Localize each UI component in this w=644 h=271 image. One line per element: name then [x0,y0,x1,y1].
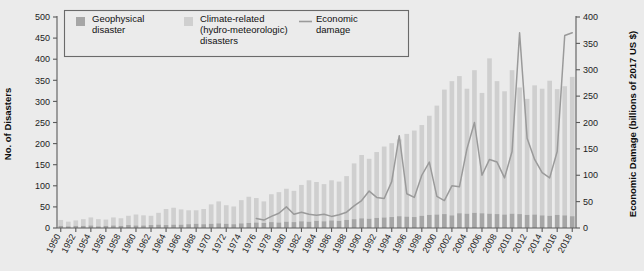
bar-climate-2001 [442,90,447,214]
y-tick-label: 200 [35,139,50,149]
bar-geophysical-1971 [216,223,221,228]
bar-geophysical-1967 [186,224,191,228]
chart-legend: GeophysicaldisasterClimate-related(hydro… [65,11,409,57]
bar-climate-1966 [179,209,184,224]
bar-climate-1964 [164,209,169,225]
bar-climate-2007 [487,58,492,213]
bar-climate-2006 [480,93,485,213]
bar-climate-1957 [111,217,116,225]
y-tick-label: 500 [35,12,50,22]
y-tick-label: 150 [35,160,50,170]
bar-geophysical-1979 [277,223,282,228]
bar-geophysical-1980 [284,222,289,228]
bar-climate-1950 [58,220,63,226]
bar-geophysical-1984 [314,221,319,228]
bar-geophysical-2001 [442,214,447,228]
bar-geophysical-2012 [525,215,530,228]
bar-geophysical-1993 [382,217,387,228]
bar-climate-1958 [119,218,124,226]
y2-axis-title: Economic Damage (billions of 2017 US $) [627,31,638,217]
bar-geophysical-2010 [510,214,515,228]
bar-geophysical-1998 [419,216,424,228]
bar-geophysical-1970 [209,224,214,228]
bar-climate-2011 [517,87,522,214]
y2-tick-label: 300 [583,65,598,75]
bar-climate-1983 [307,180,312,221]
y-tick-label: 400 [35,54,50,64]
legend-label: Climate-related [200,13,264,24]
bar-climate-1960 [134,215,139,226]
bar-geophysical-1975 [246,223,251,228]
bar-geophysical-1996 [404,217,409,228]
bar-climate-1969 [201,209,206,224]
y-tick-label: 250 [35,118,50,128]
y2-tick-label: 200 [583,118,598,128]
bar-climate-1965 [171,208,176,225]
bar-climate-1993 [382,147,387,218]
bar-climate-1996 [404,134,409,217]
bar-climate-1975 [246,197,251,223]
bar-geophysical-1983 [307,222,312,228]
y2-tick-label: 400 [583,12,598,22]
legend-label: disaster [92,24,125,35]
y-tick-label: 50 [40,202,50,212]
bar-geophysical-1977 [262,223,267,228]
bar-climate-1986 [329,180,334,220]
bar-geophysical-2007 [487,214,492,228]
bar-climate-1982 [299,185,304,221]
bar-climate-1985 [322,184,327,221]
legend-label: Geophysical [92,13,144,24]
bar-geophysical-1969 [201,224,206,228]
bar-geophysical-1972 [224,224,229,228]
bar-climate-1955 [96,219,101,226]
bar-climate-1979 [277,192,282,222]
y2-tick-label: 100 [583,170,598,180]
y2-tick-label: 50 [583,197,593,207]
bar-geophysical-1995 [397,216,402,228]
legend-label: damage [316,24,350,35]
bar-climate-1991 [367,159,372,219]
bar-geophysical-1992 [374,218,379,228]
bar-climate-1952 [73,220,78,225]
bar-geophysical-2015 [547,216,552,228]
bar-geophysical-2003 [457,213,462,228]
y-tick-label: 450 [35,33,50,43]
bar-geophysical-2000 [435,215,440,229]
bar-climate-2018 [570,77,575,216]
bar-geophysical-1991 [367,219,372,228]
bar-climate-2015 [547,81,552,216]
bar-geophysical-1999 [427,215,432,228]
bar-climate-1963 [156,213,161,225]
bar-climate-2003 [457,76,462,213]
legend-swatch-geophysical [76,17,85,26]
bar-climate-1992 [374,152,379,218]
legend-swatch-climate [184,17,193,26]
bar-geophysical-1994 [389,217,394,228]
bar-geophysical-2011 [517,214,522,228]
bar-climate-1953 [81,219,86,226]
chart-canvas: 050100150200250300350400450500 050100150… [0,0,644,271]
bar-climate-1998 [419,125,424,216]
bar-climate-2005 [472,70,477,213]
bar-geophysical-1987 [337,221,342,228]
bar-climate-1954 [89,217,94,225]
bar-climate-1959 [126,216,131,225]
y-tick-label: 100 [35,181,50,191]
bar-geophysical-1989 [352,219,357,228]
bar-geophysical-2008 [495,214,500,228]
bar-climate-2009 [502,91,507,214]
bar-geophysical-1974 [239,223,244,228]
bar-geophysical-1988 [344,220,349,228]
bar-climate-1951 [66,222,71,227]
bar-climate-1971 [216,201,221,223]
bar-geophysical-2013 [532,215,537,229]
bar-climate-1968 [194,210,199,224]
bar-climate-1989 [352,163,357,219]
bar-climate-2000 [435,106,440,215]
bar-geophysical-2014 [540,215,545,228]
bar-climate-1961 [141,215,146,225]
bar-geophysical-1985 [322,221,327,228]
bar-climate-1956 [104,220,109,226]
y2-tick-label: 250 [583,91,598,101]
bar-climate-1972 [224,205,229,224]
